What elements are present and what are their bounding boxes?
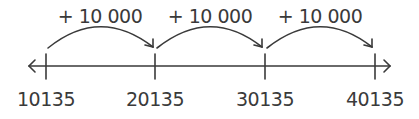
- jump-label-2: + 10 000: [168, 5, 252, 27]
- jump-arc-1: [48, 27, 153, 48]
- jump-label-3: + 10 000: [278, 5, 362, 27]
- tick-label-10135: 10135: [17, 88, 75, 110]
- tick-label-30135: 30135: [236, 88, 294, 110]
- tick-label-40135: 40135: [346, 88, 404, 110]
- tick-label-20135: 20135: [126, 88, 184, 110]
- jump-label-1: + 10 000: [58, 5, 142, 27]
- jump-arc-3: [267, 27, 372, 48]
- jump-arc-2: [157, 27, 262, 48]
